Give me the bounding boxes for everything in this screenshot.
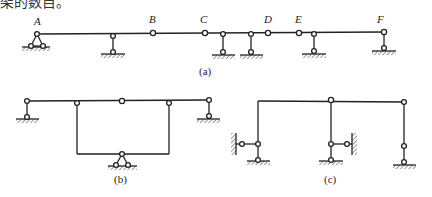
label-d: D xyxy=(263,13,272,25)
caption-b: (b) xyxy=(114,173,127,186)
figure-c xyxy=(231,97,416,169)
label-e: E xyxy=(294,13,302,25)
link-support-3 xyxy=(240,32,263,59)
label-b: B xyxy=(149,13,156,25)
label-f: F xyxy=(376,13,384,25)
beam-a xyxy=(37,32,384,34)
link-support-f xyxy=(372,29,396,55)
label-c: C xyxy=(200,13,208,25)
link-support-2 xyxy=(212,32,235,59)
hinge-e xyxy=(296,30,301,35)
label-a: A xyxy=(33,15,41,27)
hinge-d xyxy=(265,30,270,35)
caption-c: (c) xyxy=(324,173,337,186)
link-support-4 xyxy=(302,32,326,58)
hinge-b xyxy=(150,30,155,35)
hinge-c xyxy=(202,30,207,35)
caption-a: (a) xyxy=(199,65,212,78)
structure-diagrams: A B C D E F (a) (b) xyxy=(0,0,432,197)
link-support-1 xyxy=(101,34,125,58)
figure-a xyxy=(22,29,396,59)
figure-b xyxy=(16,98,220,170)
